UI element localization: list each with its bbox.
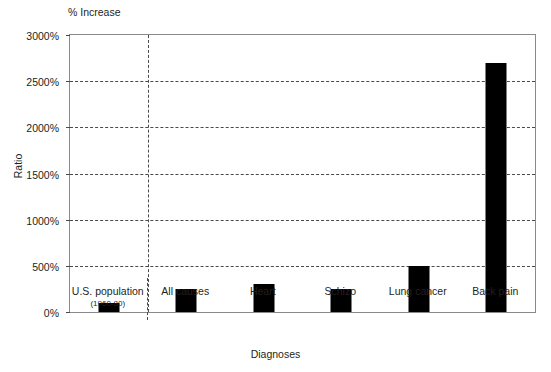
y-axis-tick-label: 1500% (26, 169, 59, 181)
category-separator (148, 35, 149, 312)
y-axis-tick: 1000% (66, 220, 70, 221)
x-axis-label-text: Heart (250, 285, 276, 297)
x-axis-label: Back pain (472, 285, 518, 297)
category-separator-extension (147, 278, 148, 320)
y-axis-tick: 1500% (66, 174, 70, 175)
x-axis-label-text: All causes (161, 285, 209, 297)
gridline (70, 81, 535, 82)
y-axis-tick-label: 1000% (26, 215, 59, 227)
x-axis-label: Lung cancer (389, 285, 447, 297)
x-axis-label-text: Lung cancer (389, 285, 447, 297)
y-axis-tick-label: 2500% (26, 76, 59, 88)
x-axis-title: Diagnoses (0, 348, 551, 360)
x-axis-label: Heart (250, 285, 276, 297)
bar-chart: % Increase Ratio 0%500%1000%1500%2000%25… (0, 0, 551, 372)
gridline (70, 220, 535, 221)
y-axis-tick-label: 3000% (26, 30, 59, 42)
plot-area: 0%500%1000%1500%2000%2500%3000% (69, 34, 536, 313)
x-axis-label: All causes (161, 285, 209, 297)
y-axis-tick: 2000% (66, 127, 70, 128)
bar (486, 63, 507, 312)
y-axis-tick: 2500% (66, 81, 70, 82)
gridline (70, 174, 535, 175)
x-axis-sublabel-text: (1960-80) (72, 299, 144, 308)
x-axis-label-text: Schizo (324, 285, 356, 297)
y-axis-tick: 500% (66, 266, 70, 267)
y-axis-tick-label: 0% (44, 307, 59, 319)
y-axis-title: Ratio (12, 136, 24, 196)
y-axis-tick: 0% (66, 312, 70, 313)
x-axis-label: Schizo (324, 285, 356, 297)
gridline (70, 266, 535, 267)
y-axis-tick: 3000% (66, 35, 70, 36)
chart-title: % Increase (68, 6, 121, 18)
y-axis-tick-label: 2000% (26, 122, 59, 134)
y-axis-tick-label: 500% (32, 261, 59, 273)
x-axis-label-text: U.S. population (72, 285, 144, 297)
x-axis-label: U.S. population(1960-80) (72, 285, 144, 308)
gridline (70, 127, 535, 128)
x-axis-label-text: Back pain (472, 285, 518, 297)
